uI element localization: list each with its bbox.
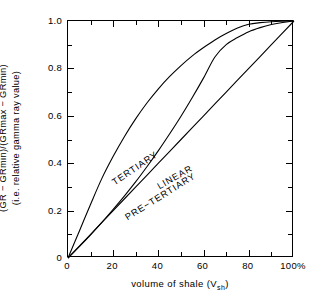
x-tick-top-major	[158, 21, 159, 27]
y-tick-right-major	[286, 116, 292, 117]
y-axis-title-line1: (GR − GRmin)/(GRmax − GRmin)	[0, 64, 8, 212]
y-tick-label: 0.8	[48, 62, 62, 73]
x-tick-top-minor	[226, 21, 227, 25]
y-tick-minor	[68, 92, 72, 93]
x-tick-major	[249, 250, 250, 256]
y-tick-right-minor	[288, 92, 292, 93]
x-tick-minor	[136, 252, 137, 256]
y-tick-right-major	[286, 211, 292, 212]
x-tick-top-major	[249, 21, 250, 27]
x-tick-top-minor	[271, 21, 272, 25]
x-tick-major	[113, 250, 114, 256]
x-tick-label: 20	[107, 260, 118, 271]
y-tick-right-major	[286, 163, 292, 164]
x-tick-major	[204, 250, 205, 256]
y-tick-right-minor	[288, 45, 292, 46]
x-tick-label: 60	[197, 260, 208, 271]
y-tick-minor	[68, 187, 72, 188]
x-axis-title: volume of shale (Vsh)	[131, 278, 229, 291]
x-tick-label: 80	[242, 260, 253, 271]
x-axis-title-subscript: sh	[217, 284, 225, 291]
y-tick-major	[68, 116, 74, 117]
y-axis-title-line2: (i.e. relative gamma ray value)	[11, 71, 21, 205]
x-tick-minor	[271, 252, 272, 256]
y-tick-label: 0.2	[48, 204, 62, 215]
y-tick-right-major	[286, 68, 292, 69]
y-tick-major	[68, 68, 74, 69]
y-tick-label: 0.4	[48, 157, 62, 168]
curve-linear	[68, 21, 294, 258]
plot-area: TERTIARYPRE−TERTIARYLINEAR	[67, 20, 293, 257]
y-tick-major	[68, 163, 74, 164]
y-tick-label: 0	[56, 252, 62, 263]
x-tick-minor	[181, 252, 182, 256]
gamma-ray-shale-volume-chart: 00.20.40.60.81.0 (GR − GRmin)/(GRmax − G…	[0, 0, 331, 305]
x-tick-label: 100%	[280, 260, 306, 271]
y-tick-major	[68, 211, 74, 212]
x-tick-top-minor	[181, 21, 182, 25]
x-tick-top-minor	[136, 21, 137, 25]
y-tick-minor	[68, 234, 72, 235]
x-axis-title-main: volume of shale (V	[131, 278, 217, 289]
y-tick-right-minor	[288, 187, 292, 188]
x-tick-label: 40	[152, 260, 163, 271]
y-tick-right-minor	[288, 140, 292, 141]
x-axis-title-close: )	[225, 278, 229, 289]
y-tick-right-minor	[288, 234, 292, 235]
y-tick-label: 1.0	[48, 15, 62, 26]
x-tick-top-major	[204, 21, 205, 27]
x-tick-minor	[91, 252, 92, 256]
curves-layer	[68, 21, 294, 258]
x-tick-major	[158, 250, 159, 256]
y-tick-minor	[68, 140, 72, 141]
x-tick-top-major	[113, 21, 114, 27]
y-tick-minor	[68, 45, 72, 46]
x-tick-top-minor	[91, 21, 92, 25]
x-tick-label: 0	[64, 260, 70, 271]
y-tick-label: 0.6	[48, 109, 62, 120]
x-tick-minor	[226, 252, 227, 256]
